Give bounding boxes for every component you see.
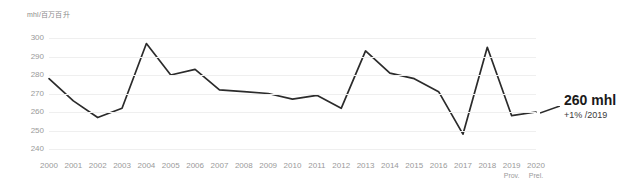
x-axis-tick-year: 2001 [64, 161, 82, 170]
x-axis-tick-year: 2015 [405, 161, 423, 170]
x-axis-tick-year: 2013 [357, 161, 375, 170]
y-axis-tick-label: 240 [22, 144, 44, 153]
y-axis-tick-label: 270 [22, 89, 44, 98]
x-axis-tick-year: 2000 [40, 161, 58, 170]
y-axis-tick-label: 300 [22, 33, 44, 42]
y-axis-tick-label: 290 [22, 52, 44, 61]
x-axis-tick-year: 2008 [235, 161, 253, 170]
x-axis-tick-year: 2004 [137, 161, 155, 170]
y-axis-tick-label: 250 [22, 126, 44, 135]
x-axis-tick-year: 2020 [527, 161, 545, 170]
x-axis-tick-year: 2002 [89, 161, 107, 170]
callout-annotation: 260 mhl +1% /2019 [564, 92, 616, 120]
x-axis-tick-year: 2014 [381, 161, 399, 170]
callout-delta: +1% /2019 [564, 110, 616, 120]
x-axis-tick-year: 2009 [259, 161, 277, 170]
x-axis-tick-year: 2019 [503, 161, 521, 170]
x-axis-tick-year: 2016 [430, 161, 448, 170]
gridline [49, 75, 536, 76]
y-axis-tick-label: 260 [22, 107, 44, 116]
gridline [49, 131, 536, 132]
x-axis-tick-year: 2006 [186, 161, 204, 170]
gridline [49, 149, 536, 150]
x-axis-tick-year: 2018 [478, 161, 496, 170]
x-axis-tick-year: 2010 [284, 161, 302, 170]
x-axis-tick-label: 2020Prel. [519, 161, 553, 179]
y-axis-tick-label: 280 [22, 70, 44, 79]
callout-leader-line [540, 106, 560, 114]
x-axis-tick-year: 2011 [308, 161, 325, 170]
x-axis-tick-year: 2005 [162, 161, 180, 170]
gridline [49, 38, 536, 39]
gridline [49, 112, 536, 113]
x-axis-tick-sublabel: Prel. [519, 172, 553, 179]
x-axis-tick-year: 2007 [211, 161, 229, 170]
x-axis-tick-year: 2012 [332, 161, 350, 170]
gridline [49, 57, 536, 58]
x-axis-tick-year: 2017 [454, 161, 472, 170]
callout-value: 260 mhl [564, 92, 616, 108]
gridline [49, 94, 536, 95]
chart-container: mhl/百万百升 300290280270260250240 200020012… [0, 0, 642, 186]
plot-area [49, 38, 536, 149]
x-axis-tick-year: 2003 [113, 161, 131, 170]
